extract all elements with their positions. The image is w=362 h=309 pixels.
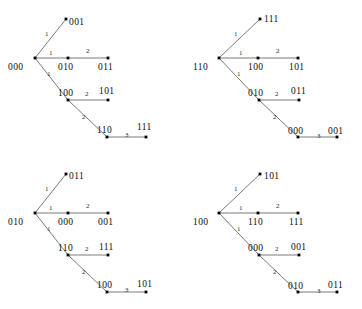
node-label-111: 111 — [289, 217, 304, 227]
node-label-100: 100 — [58, 88, 73, 98]
node-dot-001 — [298, 254, 301, 257]
node-dot-011 — [336, 291, 339, 294]
edge-weight-n6-n7: 3 — [317, 287, 321, 295]
edge-weight-n4-n5: 2 — [275, 245, 279, 253]
node-label-001: 001 — [98, 217, 113, 227]
edge-weight-n4-n5: 2 — [85, 90, 89, 98]
node-dot-100 — [218, 212, 221, 215]
node-dot-110 — [106, 136, 109, 139]
edge-weight-root-n4: 1 — [237, 70, 241, 78]
node-label-100: 100 — [193, 217, 208, 227]
edge-weight-n4-n6: 2 — [82, 113, 86, 121]
node-dot-001 — [65, 18, 68, 21]
node-label-011: 011 — [328, 280, 343, 290]
edge-weight-n4-n5: 2 — [85, 245, 89, 253]
node-dot-001 — [336, 136, 339, 139]
node-dot-000 — [67, 212, 70, 215]
node-label-111: 111 — [137, 122, 152, 132]
panel-bottom-left-edges — [0, 155, 181, 309]
edge-weight-n2-n3: 2 — [86, 47, 90, 55]
edge-weight-root-n4: 1 — [47, 70, 51, 78]
node-dot-100 — [67, 99, 70, 102]
edge-weight-n2-n3: 2 — [86, 202, 90, 210]
node-label-110: 110 — [193, 62, 208, 72]
node-label-000: 000 — [248, 243, 263, 253]
edge-weight-root-n1: 1 — [234, 30, 238, 38]
edge-weight-n6-n7: 3 — [125, 131, 129, 139]
node-label-001: 001 — [69, 17, 84, 27]
edge-weight-n2-n3: 2 — [276, 202, 280, 210]
node-label-100: 100 — [248, 62, 263, 72]
node-dot-111 — [259, 18, 262, 21]
edge-weight-n6-n7: 3 — [125, 286, 129, 294]
node-label-110: 110 — [58, 243, 73, 253]
edge-weight-root-n2: 1 — [49, 49, 53, 57]
panel-bottom-right: 1001011101110000010100111121223 — [181, 155, 362, 309]
node-dot-000 — [258, 254, 261, 257]
node-dot-010 — [258, 99, 261, 102]
edge-weight-n4-n6: 2 — [273, 113, 277, 121]
node-dot-111 — [107, 254, 110, 257]
panel-bottom-left: 0100110000011101111001011121223 — [0, 155, 181, 309]
node-dot-011 — [298, 99, 301, 102]
node-label-110: 110 — [97, 125, 112, 135]
edge-weight-root-n4: 1 — [47, 225, 51, 233]
node-label-101: 101 — [99, 86, 114, 96]
node-label-010: 010 — [58, 62, 73, 72]
panel-top-left-edges — [0, 0, 181, 154]
node-dot-010 — [67, 57, 70, 60]
node-label-110: 110 — [248, 217, 263, 227]
node-label-100: 100 — [97, 280, 112, 290]
edge-weight-n4-n5: 2 — [275, 90, 279, 98]
edge-weight-root-n2: 1 — [239, 204, 243, 212]
node-label-001: 001 — [291, 242, 306, 252]
node-dot-111 — [297, 212, 300, 215]
node-dot-101 — [145, 291, 148, 294]
node-dot-110 — [257, 212, 260, 215]
node-dot-101 — [297, 57, 300, 60]
node-dot-110 — [218, 57, 221, 60]
node-label-101: 101 — [289, 62, 304, 72]
edge-weight-n4-n6: 2 — [82, 268, 86, 276]
node-dot-010 — [297, 291, 300, 294]
edge-weight-root-n1: 1 — [234, 185, 238, 193]
node-dot-100 — [257, 57, 260, 60]
edge-weight-root-n1: 1 — [45, 30, 49, 38]
edge-weight-root-n4: 1 — [237, 225, 241, 233]
node-label-101: 101 — [264, 171, 279, 181]
node-label-111: 111 — [99, 242, 114, 252]
edge-weight-n6-n7: 3 — [317, 132, 321, 140]
node-label-011: 011 — [98, 62, 113, 72]
node-dot-011 — [107, 57, 110, 60]
node-dot-100 — [106, 291, 109, 294]
node-label-001: 001 — [328, 126, 343, 136]
node-dot-001 — [107, 212, 110, 215]
node-dot-000 — [297, 136, 300, 139]
node-dot-111 — [145, 136, 148, 139]
panel-top-right: 1101111001010100110000011121223 — [181, 0, 362, 154]
node-label-010: 010 — [8, 217, 23, 227]
edge-weight-root-n1: 1 — [45, 185, 49, 193]
node-label-000: 000 — [8, 62, 23, 72]
node-label-111: 111 — [264, 14, 279, 24]
edge-weight-n2-n3: 2 — [276, 47, 280, 55]
node-label-011: 011 — [291, 86, 306, 96]
figure-canvas: 0000010100111001011101111121223110111100… — [0, 0, 362, 309]
node-dot-110 — [67, 254, 70, 257]
node-label-000: 000 — [288, 126, 303, 136]
edge-weight-root-n2: 1 — [49, 204, 53, 212]
panel-top-left: 0000010100111001011101111121223 — [0, 0, 181, 154]
node-label-010: 010 — [248, 88, 263, 98]
node-dot-011 — [65, 173, 68, 176]
edge-weight-n4-n6: 2 — [273, 268, 277, 276]
edge-weight-root-n2: 1 — [239, 49, 243, 57]
node-dot-000 — [34, 57, 37, 60]
node-label-010: 010 — [288, 281, 303, 291]
node-dot-101 — [107, 99, 110, 102]
node-dot-101 — [259, 173, 262, 176]
node-label-011: 011 — [69, 171, 84, 181]
node-label-101: 101 — [137, 279, 152, 289]
node-dot-010 — [34, 212, 37, 215]
node-label-000: 000 — [58, 217, 73, 227]
